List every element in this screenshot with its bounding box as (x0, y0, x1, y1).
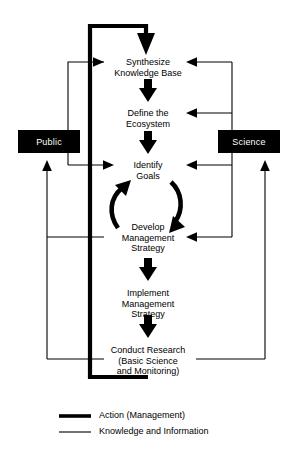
legend-label-action: Action (Management) (99, 410, 185, 421)
actor-label-public: Public (36, 137, 62, 147)
arrowhead-into-science (260, 160, 270, 171)
arrowhead-public-to-synthesize (93, 57, 104, 67)
arrowhead-public-to-identify (103, 160, 114, 170)
arrowhead-science-to-identify (186, 160, 197, 170)
process-flow-arrows (139, 79, 157, 338)
arrow-develop-to-implement (139, 258, 157, 281)
arrowhead-science-to-develop (186, 232, 197, 242)
arrow-synthesize-to-define (139, 79, 157, 102)
flowchart-diagram: Synthesize Knowledge Base Define the Eco… (0, 0, 296, 454)
actor-box-public: Public (18, 130, 80, 153)
actor-box-science: Science (218, 130, 280, 153)
actor-label-science: Science (232, 137, 265, 147)
action-loop-arrowhead-group (137, 33, 155, 55)
action-loop-arrowhead (137, 33, 155, 55)
identify-develop-cycle (112, 180, 185, 233)
arrow-define-to-identify (139, 131, 157, 154)
knowledge-information-lines (47, 62, 265, 359)
curve-identify-to-develop (171, 182, 181, 222)
arrowhead-science-to-synthesize (186, 57, 197, 67)
arrow-implement-to-conduct (139, 315, 157, 338)
diagram-canvas (0, 0, 296, 454)
arrowhead-science-to-define (186, 108, 197, 118)
curve-develop-to-identify (112, 188, 122, 228)
arrowhead-into-public (42, 160, 52, 171)
legend-label-knowledge: Knowledge and Information (99, 426, 209, 437)
